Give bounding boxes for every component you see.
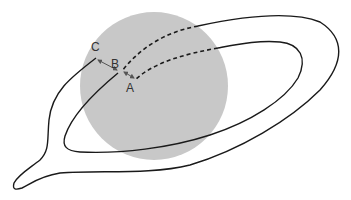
label-c: C (91, 40, 100, 54)
diagram-canvas: C B A (0, 0, 351, 200)
label-b: B (111, 57, 119, 71)
label-a: A (126, 81, 134, 95)
